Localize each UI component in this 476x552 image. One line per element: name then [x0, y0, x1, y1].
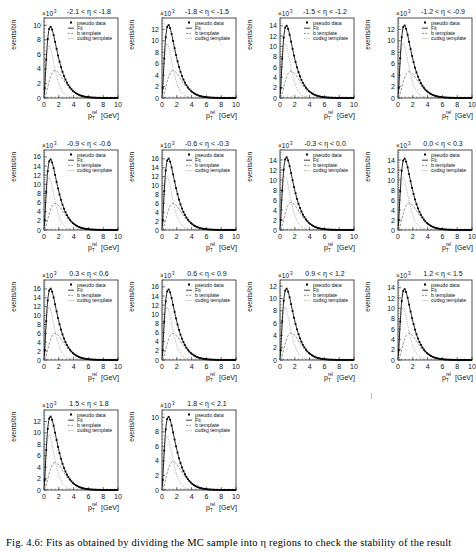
y-tick-label: 12: [33, 418, 41, 425]
y-tick-label: 6: [273, 197, 277, 204]
panel-title: 0.0 < η < 0.3: [423, 140, 462, 148]
y-tick-label: 6: [37, 199, 41, 206]
y-tick-label: 8: [273, 307, 277, 314]
y-tick-label: 10: [33, 22, 41, 29]
svg-text:[GeV]: [GeV]: [219, 244, 237, 252]
svg-text:T: T: [210, 378, 213, 383]
chart-panel: 02468100246810×1031.8 < η < 2.1events/bi…: [126, 394, 244, 524]
panel-title: -1.8 < η < -1.5: [185, 8, 229, 16]
x-tick-label: 4: [308, 363, 312, 370]
svg-text:[GeV]: [GeV]: [101, 244, 119, 252]
b-template-curve: [162, 203, 236, 230]
b-template-curve: [398, 72, 472, 98]
panel-title: 1.5 < η < 1.8: [69, 400, 108, 408]
b-template-curve: [162, 462, 236, 490]
y-tick-label: 10: [269, 295, 277, 302]
y-tick-label: 2: [155, 218, 159, 225]
y-tick-label: 10: [269, 43, 277, 50]
y-tick-label: 6: [155, 443, 159, 450]
y-tick-label: 10: [387, 305, 395, 312]
svg-text:3: 3: [408, 141, 411, 146]
y-tick-label: 10: [269, 177, 277, 184]
b-template-curve: [44, 463, 118, 490]
svg-text:[GeV]: [GeV]: [337, 244, 355, 252]
svg-text:cudsg template: cudsg template: [313, 167, 348, 173]
x-tick-label: 4: [190, 363, 194, 370]
x-axis-label: pTrel[GeV]: [88, 110, 119, 121]
chart-panel: 024681012140246810×103-0.3 < η < 0.0even…: [244, 134, 362, 264]
legend: pseudo dataFitb templatecudsg template: [186, 412, 230, 434]
x-tick-label: 8: [219, 493, 223, 500]
y-tick-label: 4: [391, 207, 395, 214]
cudsg-template-curve: [162, 436, 236, 490]
x-tick-label: 2: [293, 101, 297, 108]
y-tick-label: 8: [273, 53, 277, 60]
y-tick-label: 10: [151, 311, 159, 318]
x-axis-label: pTrel[GeV]: [88, 502, 119, 513]
y-exponent: ×10: [42, 272, 53, 279]
svg-text:T: T: [92, 116, 95, 121]
panel-title: -0.9 < η < -0.6: [67, 140, 111, 148]
figure-grid: 02468100246810×103-2.1 < η < -1.8events/…: [0, 0, 476, 535]
svg-text:T: T: [92, 508, 95, 513]
svg-text:cudsg template: cudsg template: [77, 297, 112, 303]
x-tick-label: 0: [42, 233, 46, 240]
y-exponent: ×10: [42, 10, 53, 17]
legend: pseudo dataFitb templatecudsg template: [422, 20, 466, 42]
chart-panel: 024681012140246810×1030.0 < η < 0.3event…: [362, 134, 476, 264]
legend: pseudo dataFitb templatecudsg template: [68, 152, 112, 174]
x-tick-label: 4: [72, 233, 76, 240]
cudsg-template-curve: [398, 177, 472, 230]
x-tick-label: 10: [350, 363, 358, 370]
chart-panel: 0246810120246810×1031.5 < η < 1.8events/…: [8, 394, 126, 524]
svg-text:[GeV]: [GeV]: [101, 504, 119, 512]
y-tick-label: 0: [391, 95, 395, 102]
x-tick-label: 6: [204, 101, 208, 108]
x-tick-label: 4: [308, 101, 312, 108]
y-tick-label: 4: [37, 339, 41, 346]
svg-text:[GeV]: [GeV]: [101, 374, 119, 382]
y-tick-label: 2: [273, 84, 277, 91]
y-tick-label: 8: [155, 49, 159, 56]
y-tick-label: 12: [151, 302, 159, 309]
svg-text:rel: rel: [92, 242, 97, 247]
legend: pseudo dataFitb templatecudsg template: [186, 152, 230, 174]
x-tick-label: 8: [455, 233, 459, 240]
svg-text:rel: rel: [328, 242, 333, 247]
x-axis-label: pTrel[GeV]: [442, 372, 473, 383]
x-tick-label: 2: [293, 233, 297, 240]
svg-text:[GeV]: [GeV]: [455, 374, 473, 382]
y-axis-label: events/bin: [364, 152, 371, 182]
x-axis-label: pTrel[GeV]: [442, 110, 473, 121]
x-tick-label: 0: [160, 363, 164, 370]
y-tick-label: 4: [155, 72, 159, 79]
svg-text:T: T: [210, 248, 213, 253]
x-tick-label: 10: [114, 101, 122, 108]
y-tick-label: 14: [269, 157, 277, 164]
y-tick-label: 4: [37, 208, 41, 215]
x-tick-label: 2: [57, 101, 61, 108]
y-tick-label: 10: [387, 37, 395, 44]
x-tick-label: 6: [322, 233, 326, 240]
y-tick-label: 6: [391, 197, 395, 204]
y-tick-label: 8: [155, 191, 159, 198]
x-tick-label: 2: [175, 101, 179, 108]
svg-text:T: T: [446, 378, 449, 383]
x-axis-label: pTrel[GeV]: [324, 372, 355, 383]
x-tick-label: 6: [204, 363, 208, 370]
y-tick-label: 6: [37, 452, 41, 459]
chart-panel: 0246810120246810×103-1.8 < η < -1.5event…: [126, 2, 244, 132]
svg-text:T: T: [446, 248, 449, 253]
y-tick-label: 8: [155, 320, 159, 327]
figure-caption: Fig. 4.6: Fits as obtained by dividing t…: [6, 537, 476, 548]
chart-panel: 02468100246810×103-2.1 < η < -1.8events/…: [8, 2, 126, 132]
x-tick-label: 0: [160, 493, 164, 500]
y-tick-label: 0: [37, 227, 41, 234]
y-tick-label: 0: [37, 357, 41, 364]
y-tick-label: 6: [37, 51, 41, 58]
y-tick-label: 12: [151, 26, 159, 33]
y-tick-label: 6: [273, 64, 277, 71]
x-tick-label: 8: [337, 363, 341, 370]
b-template-curve: [44, 204, 118, 230]
svg-text:T: T: [210, 116, 213, 121]
